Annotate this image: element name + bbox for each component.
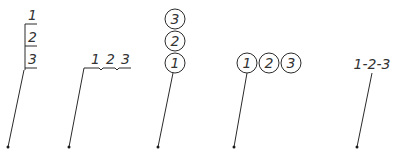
callout-underline-bracketed: 1 2 3: [68, 51, 132, 149]
label-2: 2: [28, 29, 37, 45]
label-2: 2: [106, 51, 115, 67]
label-3: 3: [287, 55, 296, 71]
callout-diagram: 1 2 3 1 2 3 3 2 1 1 2 3 1-2-3: [0, 0, 400, 156]
label-3: 3: [28, 51, 37, 67]
label-3: 3: [171, 11, 180, 27]
leader-line: [234, 73, 247, 147]
label-1: 1: [91, 51, 100, 67]
leader-line: [8, 70, 24, 147]
leader-dot: [356, 146, 359, 149]
label-2: 2: [265, 55, 274, 71]
label-2: 2: [171, 33, 180, 49]
callout-stacked-circles: 3 2 1: [157, 9, 186, 149]
leader-dot: [157, 146, 160, 149]
leader-line: [158, 73, 173, 147]
label-1: 1: [28, 7, 37, 23]
label-1: 1: [243, 55, 252, 71]
label-1: 1: [171, 55, 180, 71]
leader-line: [69, 68, 84, 147]
leader-line: [357, 73, 372, 147]
leader-dot: [233, 146, 236, 149]
leader-dot: [7, 146, 10, 149]
leader-dot: [68, 146, 71, 149]
callout-stacked-boxes: 1 2 3: [7, 7, 38, 149]
label-text: 1-2-3: [354, 56, 391, 72]
bracket-underline: [84, 68, 131, 70]
callout-dash-joined: 1-2-3: [354, 56, 391, 149]
callout-inline-circles: 1 2 3: [233, 53, 302, 149]
label-3: 3: [121, 51, 130, 67]
